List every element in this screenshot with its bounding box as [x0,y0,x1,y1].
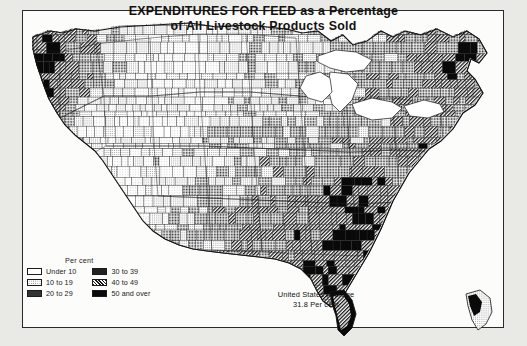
county-cell [414,261,419,267]
county-cell [114,42,127,54]
county-cell [167,310,174,318]
county-cell [319,111,330,116]
county-cell [289,73,299,80]
county-cell [253,126,263,137]
county-cell [277,54,287,62]
county-cell [281,88,290,97]
county-cell [246,166,255,177]
county-cell [226,300,239,310]
county-cell [74,207,84,213]
county-cell [192,310,206,318]
county-cell [470,230,477,240]
county-cell [414,61,421,73]
county-cell [174,310,179,318]
county-cell [223,88,234,97]
county-cell [276,111,286,116]
county-cell [490,88,500,97]
county-cell [239,117,252,127]
county-cell [179,266,188,274]
county-cell [147,111,156,116]
county-cell [242,266,249,274]
county-cell [171,196,184,207]
county-cell [307,166,315,177]
county-cell [160,177,166,185]
county-cell [149,149,162,157]
county-cell [228,97,233,105]
county-cell [36,105,45,111]
county-cell [78,149,84,157]
county-cell [480,143,486,148]
county-cell [365,207,378,213]
county-cell [50,177,59,185]
county-cell [266,80,278,88]
legend-item-50-over[interactable]: 50 and over [92,289,150,298]
county-cell [71,310,81,318]
county-cell [278,80,285,88]
county-cell [170,126,181,137]
legend-item-30-39[interactable]: 30 to 39 [92,267,150,276]
county-cell [345,207,359,213]
county-cell [234,88,242,97]
county-cell [311,240,317,250]
legend-item-40-49[interactable]: 40 to 49 [92,278,150,287]
county-cell [134,117,139,127]
county-cell [432,88,441,97]
legend-item-20-29[interactable]: 20 to 29 [27,289,76,298]
county-cell [467,138,479,144]
county-cell [110,230,120,240]
county-cell [345,25,356,34]
county-cell [337,213,347,224]
county-cell [185,300,196,310]
county-cell [60,20,65,25]
county-cell [369,25,383,34]
county-cell [179,213,187,224]
county-cell [317,240,322,250]
county-cell [224,230,234,240]
county-cell [442,143,451,148]
county-cell [267,261,274,267]
county-cell [38,111,48,116]
county-cell [245,186,255,196]
county-cell [402,186,408,196]
county-cell [460,166,469,177]
county-cell [323,266,328,274]
county-cell [154,54,159,62]
county-cell [156,73,167,80]
county-cell [90,230,102,240]
legend-item-10-19[interactable]: 10 to 19 [27,278,76,287]
county-cell [295,177,303,185]
county-cell [229,285,240,294]
county-cell [246,261,257,267]
county-cell [437,261,444,267]
county-cell [437,224,449,230]
county-cell [117,166,129,177]
county-cell [294,54,303,62]
county-cell [77,230,85,240]
county-cell [30,111,38,116]
county-cell [394,224,402,230]
county-cell [384,42,389,54]
county-cell [153,196,163,207]
county-cell [323,251,334,261]
county-cell [57,213,66,224]
county-cell [42,157,49,167]
county-cell [143,25,155,34]
county-cell [105,73,113,80]
county-cell [393,310,399,318]
county-cell [194,224,203,230]
county-cell [234,138,240,144]
county-cell [342,177,355,185]
legend-item-under-10[interactable]: Under 10 [27,267,76,276]
county-cell [447,42,459,54]
county-cell [402,42,412,54]
county-cell [473,157,479,167]
county-cell [65,20,74,25]
county-cell [358,126,369,137]
county-cell [259,196,271,207]
county-cell [275,143,287,148]
county-cell [177,261,184,267]
county-cell [73,143,85,148]
county-cell [309,138,318,144]
county-cell [239,54,247,62]
county-cell [381,224,394,230]
